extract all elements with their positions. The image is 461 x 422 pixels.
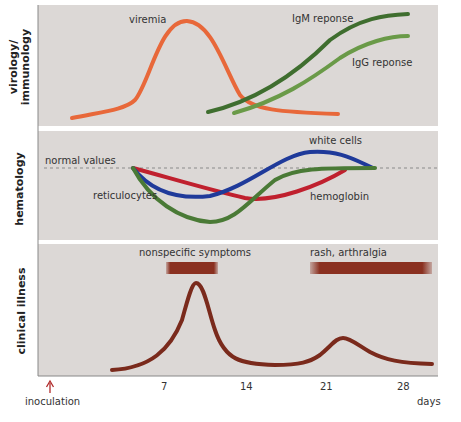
igg-response-label: IgG reponse [352, 57, 412, 68]
normal-values-label: normal values [45, 155, 116, 166]
viremia-label: viremia [129, 14, 166, 25]
tick-28: 28 [397, 381, 410, 392]
hematology-ylabel: hematology [14, 149, 26, 229]
reticulocytes-label: reticulocytes [93, 190, 157, 201]
virology-ylabel: virology/ immunology [8, 27, 32, 107]
hemoglobin-label: hemoglobin [310, 191, 369, 202]
nonspecific-symptoms-bar [166, 262, 218, 274]
inoculation-label: inoculation [25, 396, 80, 407]
tick-21: 21 [320, 381, 333, 392]
clinical-illness-curve [112, 283, 432, 370]
clinical-ylabel: clinical illness [16, 261, 28, 361]
igm-response-label: IgM reponse [292, 13, 353, 24]
tick-14: 14 [240, 381, 253, 392]
nonspecific-symptoms-label: nonspecific symptoms [139, 247, 251, 258]
inoculation-arrow-icon [47, 381, 54, 393]
rash-arthralgia-label: rash, arthralgia [310, 247, 387, 258]
rash-arthralgia-bar [310, 262, 432, 274]
white-cells-label: white cells [309, 135, 362, 146]
tick-7: 7 [161, 381, 167, 392]
days-label: days [417, 396, 441, 407]
